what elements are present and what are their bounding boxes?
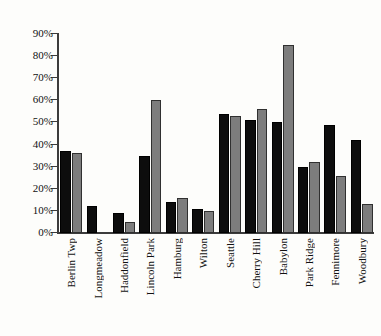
bar (113, 213, 124, 233)
bar (245, 120, 256, 233)
bar (336, 176, 347, 233)
x-axis-label: Wilton (197, 238, 209, 268)
bars-container (58, 30, 374, 233)
bar (87, 206, 98, 233)
y-tick-label: 40% (33, 138, 53, 149)
x-axis-label: Woodbury (356, 238, 368, 284)
x-axis-label: Babylon (277, 238, 289, 275)
bar (324, 125, 335, 233)
bar-chart: 0%10%20%30%40%50%60%70%80%90% Berlin Twp… (0, 0, 381, 336)
x-axis-label: Seattle (224, 238, 236, 268)
bar (283, 45, 294, 233)
y-tick-label: 0% (38, 227, 53, 238)
x-axis-label: Park Ridge (303, 238, 315, 287)
bar (177, 198, 188, 233)
y-tick-label: 70% (33, 72, 53, 83)
bar (219, 114, 230, 233)
y-tick-label: 50% (33, 116, 53, 127)
y-tick-label: 20% (33, 182, 53, 193)
plot-area (58, 30, 374, 233)
y-tick-label: 90% (33, 28, 53, 39)
x-axis-label: Lincoln Park (144, 238, 156, 295)
x-axis-label: Hamburg (171, 238, 183, 279)
bar (166, 202, 177, 233)
y-tick-label: 60% (33, 94, 53, 105)
y-tick-label: 30% (33, 160, 53, 171)
y-tick-label: 10% (33, 204, 53, 215)
bar (230, 116, 241, 233)
bar (192, 209, 203, 233)
bar (125, 222, 136, 233)
x-axis-label: Cherry Hill (250, 238, 262, 288)
bar (257, 109, 268, 233)
bar (362, 204, 373, 233)
y-tick-label: 80% (33, 50, 53, 61)
x-axis-label: Longmeadow (92, 238, 104, 298)
bar (309, 162, 320, 233)
bar (272, 122, 283, 233)
x-axis-label: Berlin Twp (65, 238, 77, 287)
bar (60, 151, 71, 233)
bar (351, 140, 362, 233)
x-axis-labels: Berlin TwpLongmeadowHaddonfieldLincoln P… (58, 238, 374, 334)
bar (298, 167, 309, 233)
x-axis-label: Haddonfield (118, 238, 130, 293)
bar (204, 211, 215, 233)
bar (151, 100, 162, 233)
bar (139, 156, 150, 233)
x-axis-label: Fennimore (329, 238, 341, 286)
bar (72, 153, 83, 233)
